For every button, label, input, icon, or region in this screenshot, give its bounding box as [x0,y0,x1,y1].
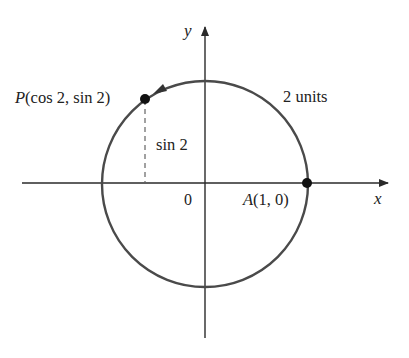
point-p-label: P(cos 2, sin 2) [15,90,110,107]
point-a [302,178,312,188]
point-a-label: A(1, 0) [243,192,289,209]
point-p [140,94,150,104]
origin-label: 0 [184,192,192,208]
sin-segment-label: sin 2 [156,137,188,154]
point-a-name: A [243,190,253,209]
point-p-name: P [15,88,25,107]
x-axis-label: x [374,190,382,207]
arc-length-label: 2 units [283,89,327,106]
y-axis-label: y [184,22,192,39]
point-p-coords: (cos 2, sin 2) [25,88,110,107]
arc-direction-arrow-icon [153,84,167,94]
unit-circle-diagram [0,0,409,358]
point-a-coords: (1, 0) [253,190,289,209]
